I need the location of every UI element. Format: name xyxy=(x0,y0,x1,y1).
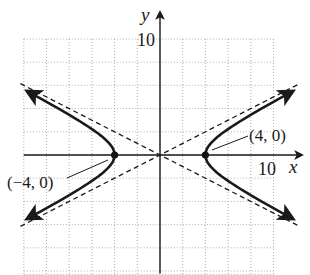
hyperbola-chart: y 10 10 x (4, 0) (−4, 0) xyxy=(0,0,310,275)
y-axis-label: y xyxy=(139,4,150,25)
vertex-point-left xyxy=(111,151,118,158)
leader-line-left xyxy=(67,160,108,178)
vertex-point-right xyxy=(202,151,209,158)
y-tick-label-10: 10 xyxy=(137,30,155,50)
grid xyxy=(24,39,274,274)
x-axis-label: x xyxy=(288,156,298,177)
vertex-label-right: (4, 0) xyxy=(249,126,286,145)
x-tick-label-10: 10 xyxy=(258,159,276,179)
vertex-label-left: (−4, 0) xyxy=(7,173,53,192)
